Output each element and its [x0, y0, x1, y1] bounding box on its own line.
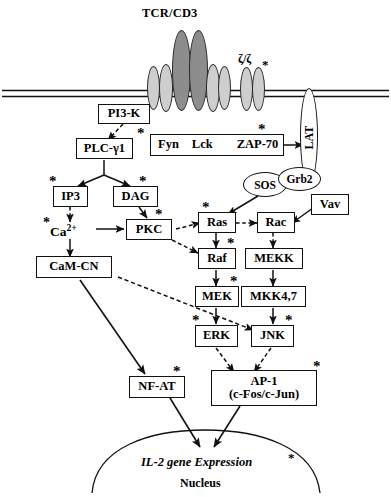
arrow-vav-to-rac — [292, 208, 313, 223]
asterisk-ca: * — [43, 216, 50, 230]
asterisk-ras: * — [202, 200, 210, 215]
node-ras[interactable]: Ras — [198, 212, 236, 233]
il2-gene-expression-label: IL-2 gene Expression — [141, 455, 252, 470]
node-sos-label: SOS — [254, 179, 276, 191]
page-title: TCR/CD3 — [142, 6, 198, 21]
asterisk-zeta: * — [262, 58, 269, 71]
asterisk-plcg1: * — [137, 126, 145, 141]
node-dag[interactable]: DAG — [113, 186, 158, 207]
cd3-subunit-icon — [218, 66, 231, 110]
node-erk-label: ERK — [203, 329, 230, 342]
node-raf[interactable]: Raf — [198, 248, 236, 269]
node-ip3-label: IP3 — [61, 190, 80, 203]
node-pi3k-label: PI3-K — [108, 107, 141, 120]
arrow-ap1-to-nucleus — [214, 406, 240, 447]
node-vav[interactable]: Vav — [311, 194, 349, 215]
node-rac-label: Rac — [266, 216, 287, 229]
node-lat-label: LAT — [302, 123, 317, 153]
arrow-dag-to-pkc — [139, 207, 147, 218]
asterisk-raf: * — [227, 236, 235, 251]
zeta-chain-label: ζ/ζ — [238, 52, 251, 67]
asterisk-erk: * — [192, 313, 200, 328]
node-ip3[interactable]: IP3 — [53, 186, 88, 207]
arrow-plcg1-to-dag — [104, 175, 130, 186]
node-raf-label: Raf — [207, 252, 226, 265]
node-erk[interactable]: ERK — [195, 325, 238, 347]
arrow-jnk-to-ap1 — [254, 348, 271, 372]
asterisk-nfat: * — [173, 364, 181, 379]
node-pi3k[interactable]: PI3-K — [98, 104, 150, 124]
asterisk-mek: * — [230, 274, 238, 289]
zeta-subunit-icon — [252, 67, 265, 111]
node-ras-label: Ras — [207, 216, 227, 229]
node-ap1-sublabel: (c-Fos/c-Jun) — [229, 388, 299, 401]
arrow-pkc-to-raf — [172, 240, 198, 253]
node-ap1[interactable]: AP-1 (c-Fos/c-Jun) — [211, 370, 317, 406]
asterisk-jnk: * — [285, 313, 293, 328]
node-mekk[interactable]: MEKK — [245, 248, 303, 269]
nucleus-label: Nucleus — [180, 476, 221, 491]
node-nfat-label: NF-AT — [138, 380, 175, 393]
arrow-pkc-to-ras — [176, 223, 200, 229]
cd3-subunit-icon — [159, 64, 173, 112]
tcr-beta-subunit-icon — [189, 30, 208, 111]
node-mkk47-label: MKK4,7 — [250, 290, 297, 303]
asterisk-il2: * — [288, 451, 295, 464]
node-camcn[interactable]: CaM-CN — [36, 256, 112, 278]
node-jnk-label: JNK — [260, 329, 285, 342]
arrow-plcg1-to-ip3 — [78, 175, 104, 186]
node-mkk47[interactable]: MKK4,7 — [241, 286, 306, 307]
asterisk-ap1: * — [313, 359, 321, 374]
node-mek-label: MEK — [202, 290, 232, 303]
node-lck-label: Lck — [192, 138, 213, 151]
node-pkc-label: PKC — [136, 223, 162, 236]
node-plcg1[interactable]: PLC-γ1 — [76, 138, 133, 159]
asterisk-zap70: * — [258, 122, 266, 137]
node-mek[interactable]: MEK — [195, 286, 239, 307]
asterisk-pkc: * — [155, 207, 163, 222]
arrow-camcn-to-nfat — [80, 280, 145, 374]
node-src-kinases[interactable]: Fyn Lck ZAP-70 — [150, 134, 284, 156]
node-pkc[interactable]: PKC — [126, 219, 172, 240]
node-dag-label: DAG — [122, 190, 150, 203]
node-ca[interactable]: Ca2+ — [50, 221, 77, 240]
node-mekk-label: MEKK — [254, 252, 294, 265]
node-grb2[interactable]: Grb2 — [278, 167, 321, 191]
node-grb2-label: Grb2 — [286, 173, 312, 185]
node-nfat[interactable]: NF-AT — [129, 376, 185, 398]
node-rac[interactable]: Rac — [257, 212, 295, 233]
arrow-erk-to-ap1 — [216, 348, 234, 372]
node-vav-label: Vav — [320, 198, 340, 211]
asterisk-dag: * — [139, 174, 147, 189]
arrow-nfat-to-nucleus — [170, 398, 200, 447]
node-ca-label: Ca2+ — [50, 224, 77, 239]
node-camcn-label: CaM-CN — [49, 260, 98, 273]
node-jnk[interactable]: JNK — [251, 325, 294, 347]
node-fyn-label: Fyn — [158, 138, 179, 151]
node-zap70-label: ZAP-70 — [237, 138, 279, 151]
asterisk-ip3: * — [49, 174, 57, 189]
node-plcg1-label: PLC-γ1 — [84, 142, 125, 155]
signaling-pathway-diagram: TCR/CD3 ζ/ζ * PI3-K PLC-γ1 * Fyn Lck ZAP… — [0, 0, 391, 497]
